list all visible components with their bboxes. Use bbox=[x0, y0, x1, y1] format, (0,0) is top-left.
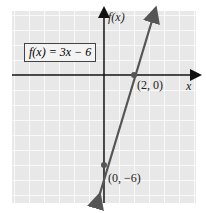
plot-area bbox=[0, 0, 206, 213]
function-box: f(x) = 3x − 6 bbox=[24, 43, 96, 62]
point-a-label: (2, 0) bbox=[137, 78, 163, 93]
x-axis-label: x bbox=[186, 79, 191, 94]
point-b-label: (0, −6) bbox=[108, 171, 141, 186]
point-y-intercept bbox=[101, 162, 107, 168]
y-axis-label: f(x) bbox=[108, 10, 125, 25]
